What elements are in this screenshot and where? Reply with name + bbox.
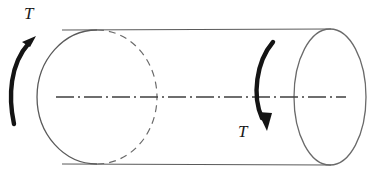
torque-arrow-left-head xyxy=(22,36,36,47)
torque-arrow-right-head xyxy=(258,112,272,131)
torque-label-right: T xyxy=(238,123,247,140)
torsion-figure: T T xyxy=(0,0,374,175)
torque-label-left: T xyxy=(24,5,33,22)
torque-arrow-right-shaft xyxy=(257,42,273,118)
torque-arrow-left-shaft xyxy=(11,43,29,124)
cylinder-diagram-svg xyxy=(0,0,374,175)
